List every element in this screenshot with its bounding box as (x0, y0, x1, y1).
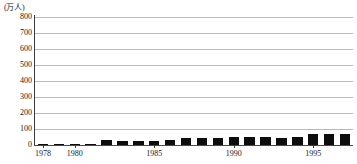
bars (35, 17, 353, 145)
x-tick-label-1990: 1990 (226, 149, 242, 159)
x-tick-1978 (43, 145, 44, 148)
y-tick-label-0: 0 (2, 141, 32, 149)
bar-1995 (308, 134, 318, 145)
x-tick-1990 (234, 145, 235, 148)
y-tick-label-500: 500 (2, 61, 32, 69)
x-tick-1995 (313, 145, 314, 148)
bar-1994 (292, 137, 302, 145)
x-tick-label-1995: 1995 (305, 149, 321, 159)
y-axis-unit-label: (万人) (4, 1, 25, 12)
plot-area (35, 17, 353, 145)
y-tick-label-100: 100 (2, 125, 32, 133)
y-tick-label-200: 200 (2, 109, 32, 117)
y-tick-label-400: 400 (2, 77, 32, 85)
x-tick-label-1985: 1985 (146, 149, 162, 159)
bar-1991 (244, 137, 254, 145)
bar-1993 (276, 138, 286, 145)
x-tick-1980 (75, 145, 76, 148)
bar-1996 (324, 134, 334, 145)
y-tick-label-600: 600 (2, 45, 32, 53)
x-axis: 19781980198519901995 (35, 145, 353, 164)
x-tick-label-1978: 1978 (35, 149, 51, 159)
bar-1997 (340, 134, 350, 145)
y-tick-label-300: 300 (2, 93, 32, 101)
y-axis-tick-labels: 8007006005004003002001000 (0, 17, 32, 145)
x-tick-label-1980: 1980 (67, 149, 83, 159)
bar-chart: (万人) 8007006005004003002001000 197819801… (0, 0, 357, 164)
y-tick-label-800: 800 (2, 13, 32, 21)
bar-1992 (260, 137, 270, 145)
bar-1990 (229, 137, 239, 145)
x-tick-1985 (154, 145, 155, 148)
y-tick-label-700: 700 (2, 29, 32, 37)
bar-1989 (213, 138, 223, 145)
